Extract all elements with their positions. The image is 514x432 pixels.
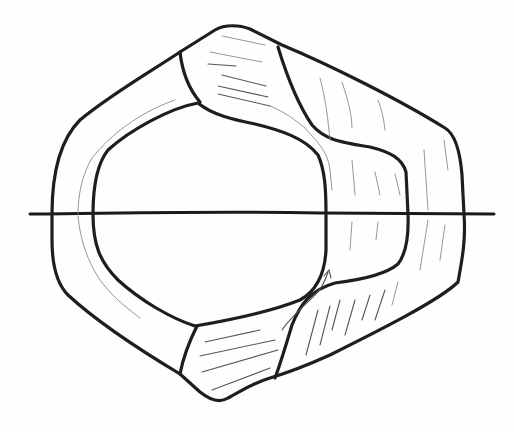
right-segment-hatching [320,78,448,270]
inner-opening-contour [93,103,326,326]
horizontal-axis-line [30,212,494,214]
top-segment-left-edge [180,52,200,102]
bottom-segment-left-edge [180,326,197,374]
sketch-canvas [0,0,514,432]
bottom-segment-hatching [200,330,278,390]
ring-cross-section-drawing [0,0,514,432]
